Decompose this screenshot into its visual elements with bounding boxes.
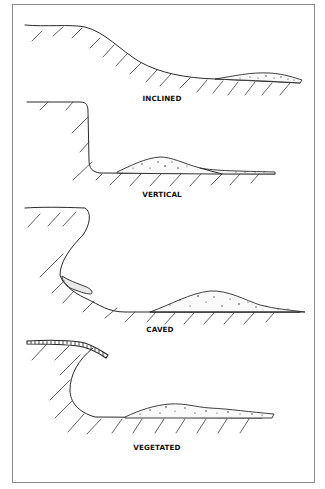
label-vegetated: VEGETATED: [133, 443, 180, 452]
label-caved: CAVED: [146, 325, 173, 334]
vegetated-profile: [27, 340, 274, 434]
label-vertical: VERTICAL: [142, 190, 181, 199]
inclined-profile: [25, 25, 302, 95]
vertical-profile: [27, 102, 275, 186]
label-inclined: INCLINED: [143, 94, 182, 103]
caved-profile: [25, 207, 305, 324]
inclined-hatching: [32, 27, 290, 95]
vegetated-hatching: [32, 345, 249, 434]
bank-profiles-diagram: [0, 0, 325, 489]
